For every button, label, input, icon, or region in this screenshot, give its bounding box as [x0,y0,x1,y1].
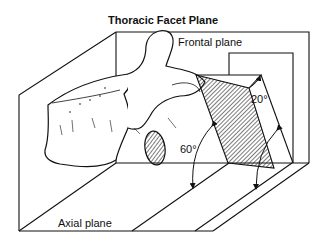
facet-plane [196,75,293,168]
diagram-drawing [0,0,326,242]
diagram-canvas: Thoracic Facet Plane Frontal plane 20° 6… [0,0,326,242]
diagram-title: Thoracic Facet Plane [0,15,326,26]
axial-plane-label: Axial plane [58,218,112,229]
frontal-plane-label: Frontal plane [178,37,242,48]
angle-20-label: 20° [251,94,268,105]
angle-60-arc-left [193,126,212,188]
angle-60-label: 60° [180,144,197,155]
